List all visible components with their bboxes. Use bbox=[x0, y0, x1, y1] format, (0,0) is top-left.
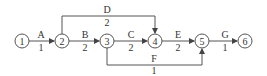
activity-C-duration: 2 bbox=[129, 42, 134, 53]
activity-D-duration: 2 bbox=[105, 17, 110, 28]
activity-F-name: F bbox=[151, 53, 157, 64]
activity-B-duration: 2 bbox=[83, 42, 88, 53]
node-5-label: 5 bbox=[200, 36, 205, 47]
activity-F-duration: 1 bbox=[152, 65, 157, 76]
activity-E-name: E bbox=[175, 29, 181, 40]
node-1-label: 1 bbox=[20, 36, 25, 47]
node-6-label: 6 bbox=[243, 36, 248, 47]
node-4-label: 4 bbox=[153, 36, 158, 47]
activity-C-name: C bbox=[128, 29, 135, 40]
activity-B-name: B bbox=[82, 29, 89, 40]
node-3-label: 3 bbox=[105, 36, 110, 47]
node-2-label: 2 bbox=[60, 36, 65, 47]
activity-D-name: D bbox=[103, 4, 110, 15]
activity-G-name: G bbox=[221, 29, 228, 40]
activity-E-duration: 2 bbox=[176, 42, 181, 53]
network-diagram: 1 2 3 4 5 6 A 1 B 2 C 2 D 2 E 2 F 1 G 1 bbox=[0, 0, 267, 76]
activity-A-duration: 1 bbox=[39, 42, 44, 53]
activity-A-name: A bbox=[37, 29, 45, 40]
activity-G-duration: 1 bbox=[223, 42, 228, 53]
